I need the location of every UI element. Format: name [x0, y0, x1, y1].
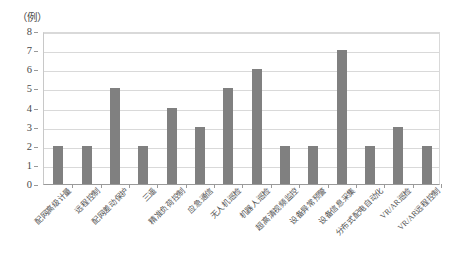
y-axis-tick-mark [34, 89, 38, 90]
bar-slot [413, 33, 441, 184]
y-axis-tick-mark [34, 166, 38, 167]
bar[interactable] [365, 146, 375, 184]
y-axis-tick-label: 1 [27, 161, 32, 171]
y-axis-tick-mark [34, 109, 38, 110]
bar[interactable] [308, 146, 318, 184]
bar[interactable] [167, 108, 177, 185]
bar[interactable] [195, 127, 205, 184]
y-axis-tick-label: 2 [27, 142, 32, 152]
bar-slot [384, 33, 412, 184]
bar-slot [299, 33, 327, 184]
bars-layer [44, 33, 439, 184]
x-axis-tick-mark [441, 184, 442, 188]
bar-slot [356, 33, 384, 184]
bar-slot [44, 33, 72, 184]
bar-slot [129, 33, 157, 184]
y-axis-tick-mark [34, 32, 38, 33]
bar-slot [243, 33, 271, 184]
x-axis-tick-label: 三遥 [141, 186, 159, 204]
bar-slot [186, 33, 214, 184]
y-axis-tick-label: 4 [27, 104, 32, 114]
bar-slot [214, 33, 242, 184]
bar[interactable] [280, 146, 290, 184]
x-axis-tick-labels: 配网高级计量远程控制配网差动保护三遥精准负荷控制应急通信无人机巡检机器人巡检超高… [43, 186, 440, 277]
bar-slot [101, 33, 129, 184]
y-axis-tick-label: 8 [27, 27, 32, 37]
bar[interactable] [53, 146, 63, 184]
bar[interactable] [252, 69, 262, 184]
bar[interactable] [393, 127, 403, 184]
bar[interactable] [110, 88, 120, 184]
bar[interactable] [223, 88, 233, 184]
y-axis-tick-label: 7 [27, 46, 32, 56]
y-axis-tick-label: 6 [27, 65, 32, 75]
y-axis-tick-label: 0 [27, 180, 32, 190]
plot-area [43, 32, 440, 185]
bar-slot [157, 33, 185, 184]
bar[interactable] [337, 50, 347, 184]
bar[interactable] [138, 146, 148, 184]
bar[interactable] [422, 146, 432, 184]
y-axis-tick-mark [34, 185, 38, 186]
bar[interactable] [82, 146, 92, 184]
y-axis-tick-mark [34, 70, 38, 71]
y-axis-tick-mark [34, 51, 38, 52]
bar-chart: （例） 876543210 配网高级计量远程控制配网差动保护三遥精准负荷控制应急… [0, 0, 451, 277]
y-axis-tick-mark [34, 147, 38, 148]
bar-slot [328, 33, 356, 184]
bar-slot [72, 33, 100, 184]
y-axis-tick-labels: 876543210 [0, 32, 38, 185]
y-axis-unit-label: （例） [17, 9, 47, 24]
y-axis-tick-label: 3 [27, 123, 32, 133]
y-axis-tick-mark [34, 128, 38, 129]
bar-slot [271, 33, 299, 184]
y-axis-tick-label: 5 [27, 84, 32, 94]
x-axis-tick-label: 配网高级计量 [33, 186, 73, 226]
